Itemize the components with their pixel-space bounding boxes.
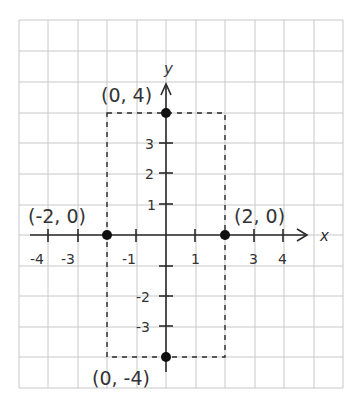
y-axis [159, 84, 173, 372]
x-tick-label: 3 [249, 251, 258, 267]
point-neg2-0 [102, 230, 112, 240]
x-tick-label: -3 [61, 251, 75, 267]
point-label: (-2, 0) [28, 205, 86, 227]
y-axis-label: y [163, 60, 174, 78]
x-axis [30, 229, 307, 242]
point-2-0 [220, 230, 230, 240]
point-label: (0, 4) [101, 84, 152, 106]
point-label: (2, 0) [234, 205, 285, 227]
point-0-neg4 [161, 352, 171, 362]
x-tick-label: -4 [30, 251, 44, 267]
point-0-4 [161, 108, 171, 118]
y-tick-label: 1 [147, 197, 156, 213]
y-tick-label: -2 [136, 289, 150, 305]
coordinate-plane-figure: x y -4 -3 -1 1 3 4 3 2 1 -2 -3 (0, 4) (-… [0, 0, 353, 398]
x-tick-label: -1 [122, 251, 136, 267]
x-tick-label: 1 [191, 251, 200, 267]
y-tick-label: 2 [145, 166, 154, 182]
y-tick-label: -3 [136, 319, 150, 335]
x-axis-label: x [319, 227, 329, 245]
y-tick-label: 3 [145, 136, 154, 152]
grid [19, 20, 343, 388]
point-label: (0, -4) [92, 367, 150, 389]
x-tick-label: 4 [278, 251, 287, 267]
